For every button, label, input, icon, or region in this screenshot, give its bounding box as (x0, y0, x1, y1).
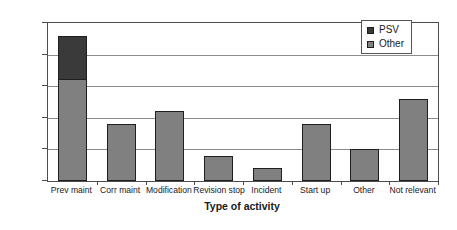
bar-segment-other[interactable] (155, 111, 184, 181)
x-axis-title: Type of activity (47, 200, 437, 212)
gridline (48, 55, 438, 56)
x-tick-mark (438, 181, 439, 185)
gridline (48, 118, 438, 119)
bar-segment-other[interactable] (302, 124, 331, 181)
x-tick-label: Prev maint (47, 185, 96, 195)
bar-segment-other[interactable] (253, 168, 282, 181)
bar-column[interactable] (302, 124, 331, 181)
legend-item[interactable]: PSV (367, 24, 404, 36)
legend-label: PSV (379, 25, 399, 35)
x-tick-label: Start up (291, 185, 340, 195)
x-tick-label: Incident (242, 185, 291, 195)
x-tick-label: Other (340, 185, 389, 195)
bar-segment-psv[interactable] (58, 36, 87, 80)
x-tick-label: Modification (145, 185, 194, 195)
bar-column[interactable] (350, 149, 379, 181)
legend-swatch-icon (367, 41, 374, 48)
x-tick-label: Revision stop (193, 185, 242, 195)
chart-legend: PSVOther (361, 20, 412, 54)
legend-swatch-icon (367, 27, 374, 34)
x-tick-label: Not relevant (388, 185, 437, 195)
bar-column[interactable] (107, 124, 136, 181)
bar-segment-other[interactable] (350, 149, 379, 181)
bar-column[interactable] (58, 36, 87, 181)
bar-segment-other[interactable] (399, 99, 428, 181)
x-tick-label: Corr maint (96, 185, 145, 195)
bar-segment-other[interactable] (107, 124, 136, 181)
bar-column[interactable] (204, 156, 233, 181)
bar-column[interactable] (399, 99, 428, 181)
legend-item[interactable]: Other (367, 38, 404, 50)
bar-column[interactable] (253, 168, 282, 181)
bar-column[interactable] (155, 111, 184, 181)
gridline (48, 86, 438, 87)
bar-segment-other[interactable] (204, 156, 233, 181)
legend-label: Other (379, 39, 404, 49)
bar-chart-figure: NUmber of leaks > 0.1 kg/s 0510152025 Pr… (0, 0, 457, 230)
bar-segment-other[interactable] (58, 80, 87, 181)
